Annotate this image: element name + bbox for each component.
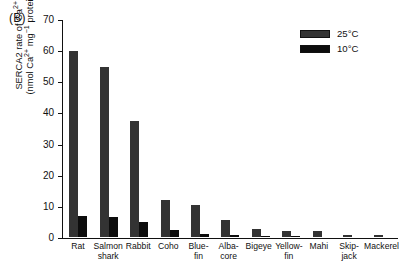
- y-tick-label: 60: [43, 46, 54, 56]
- legend-label: 25°C: [337, 29, 358, 39]
- bar: [230, 235, 239, 237]
- superscript-charge: 2+: [23, 49, 31, 57]
- legend-item: 10°C: [300, 42, 358, 55]
- y-tick-label: 50: [43, 77, 54, 87]
- x-tick-label: Rat: [63, 241, 93, 262]
- x-tick-label-line2: shark: [93, 251, 123, 261]
- y-tick-mark: [58, 113, 62, 114]
- x-tick-label-line2: fin: [183, 251, 213, 261]
- y-tick-mark: [58, 51, 62, 52]
- bar-group: [124, 20, 154, 237]
- superscript-exponent: −1: [23, 25, 31, 33]
- x-tick-label: Yellow-fin: [274, 241, 304, 262]
- y-tick-mark: [58, 238, 62, 239]
- bar-group: [215, 20, 245, 237]
- legend-swatch: [300, 45, 330, 53]
- bar: [313, 231, 322, 237]
- y-axis-label-line2: (nmol Ca2+ mg−1 protein min−1): [25, 0, 36, 95]
- x-tick-label-line1: Bigeye: [246, 241, 272, 251]
- legend: 25°C10°C: [300, 27, 358, 57]
- bar-group: [93, 20, 123, 237]
- bar: [130, 121, 139, 237]
- bar: [191, 205, 200, 237]
- bar: [200, 234, 209, 237]
- x-axis-line: [62, 238, 398, 239]
- bar: [100, 67, 109, 238]
- x-tick-label-line1: Skip-: [339, 241, 359, 251]
- x-tick-label: Mahi: [304, 241, 334, 262]
- y-tick-mark: [58, 207, 62, 208]
- x-tick-label-line1: Mahi: [310, 241, 329, 251]
- x-axis-labels: RatSalmonsharkRabbitCohoBlue-finAlba-cor…: [63, 241, 399, 262]
- x-tick-label: Skip-jack: [334, 241, 364, 262]
- x-tick-label-line1: Rabbit: [126, 241, 151, 251]
- x-tick-label: Rabbit: [123, 241, 153, 262]
- x-tick-label-line1: Salmon: [94, 241, 123, 251]
- bar: [78, 216, 87, 237]
- x-tick-label: Salmonshark: [93, 241, 123, 262]
- bar: [69, 51, 78, 237]
- bar: [109, 217, 118, 237]
- x-tick-label-line2: core: [214, 251, 244, 261]
- bar: [291, 236, 300, 237]
- bar: [139, 222, 148, 238]
- x-tick-label: Bigeye: [244, 241, 274, 262]
- panel-label: (B): [9, 11, 26, 25]
- x-tick-label-line1: Rat: [71, 241, 84, 251]
- y-tick-label: 0: [48, 233, 54, 243]
- bar-group: [185, 20, 215, 237]
- bar: [343, 235, 352, 237]
- legend-label: 10°C: [337, 44, 358, 54]
- y-tick-mark: [58, 145, 62, 146]
- bar-group: [63, 20, 93, 237]
- y-tick-label: 40: [43, 108, 54, 118]
- bar: [261, 236, 270, 237]
- bar-group: [246, 20, 276, 237]
- superscript-charge: 2+: [12, 1, 20, 9]
- y-tick-mark: [58, 176, 62, 177]
- y-tick-label: 30: [43, 140, 54, 150]
- x-tick-label-line2: jack: [334, 251, 364, 261]
- legend-swatch: [300, 30, 330, 38]
- y-tick-label: 10: [43, 202, 54, 212]
- x-tick-label-line1: Alba-: [219, 241, 239, 251]
- x-tick-label-line1: Mackerel: [364, 241, 399, 251]
- bar-group: [368, 20, 398, 237]
- bar: [374, 235, 383, 237]
- bar-group: [154, 20, 184, 237]
- y-tick-label: 20: [43, 171, 54, 181]
- bar: [170, 230, 179, 237]
- y-tick-mark: [58, 20, 62, 21]
- x-tick-label-line1: Blue-: [188, 241, 208, 251]
- x-tick-label: Blue-fin: [183, 241, 213, 262]
- x-tick-label-line1: Coho: [158, 241, 179, 251]
- bar: [161, 200, 170, 237]
- y-tick-label: 70: [43, 15, 54, 25]
- x-tick-label: Alba-core: [214, 241, 244, 262]
- bar: [221, 220, 230, 237]
- y-tick-mark: [58, 82, 62, 83]
- x-tick-label-line1: Yellow-: [275, 241, 302, 251]
- x-tick-label-line2: fin: [274, 251, 304, 261]
- figure-panel-b: (B) SERCA2 rate of Ca2+ uptake (nmol Ca2…: [0, 0, 399, 273]
- bar: [282, 231, 291, 237]
- bar: [252, 229, 261, 237]
- x-tick-label: Mackerel: [364, 241, 399, 262]
- legend-item: 25°C: [300, 27, 358, 40]
- x-tick-label: Coho: [153, 241, 183, 262]
